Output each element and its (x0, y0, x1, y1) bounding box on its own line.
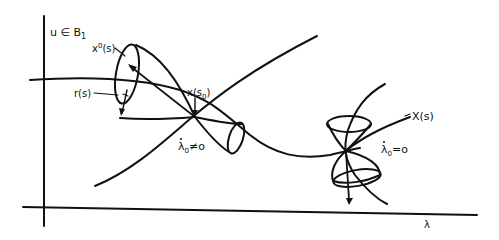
X-s-label: X(s) (412, 110, 434, 123)
radius-arrowhead-icon (119, 108, 125, 116)
lambda-dot-eq-label: λ0=o (381, 141, 408, 158)
bifurcation-diagram: u ∈ B1 x0(s) r(s) x(s0) X(s) λ0≠o λ0=o λ (0, 0, 499, 240)
lower-cone-body (332, 151, 380, 183)
horizontal-axis-label: λ (424, 219, 430, 230)
r-s-label: r(s) (74, 88, 91, 99)
horizontal-axis (23, 207, 477, 215)
vertical-axis-label: u ∈ B1 (50, 26, 86, 41)
double-cone (327, 116, 382, 205)
small-cone-upper-edge (195, 117, 242, 124)
svg-text:λ0=o: λ0=o (381, 143, 408, 158)
svg-text:λ0≠o: λ0≠o (178, 140, 205, 155)
large-cone-upper-edge (136, 45, 195, 117)
lambda-dot-neq-label: λ0≠o (178, 138, 205, 155)
diagram-canvas: u ∈ B1 x0(s) r(s) x(s0) X(s) λ0≠o λ0=o λ (0, 0, 499, 240)
bifurcating-branch-curve (95, 36, 317, 186)
down-arrowhead-icon (346, 198, 353, 205)
large-cone-lower-edge (120, 117, 195, 119)
x-s0-label: x(s0) (187, 87, 211, 101)
r-leader-line (94, 93, 118, 95)
x0-s-label: x0(s) (92, 42, 116, 54)
X-leader-line (405, 114, 410, 116)
